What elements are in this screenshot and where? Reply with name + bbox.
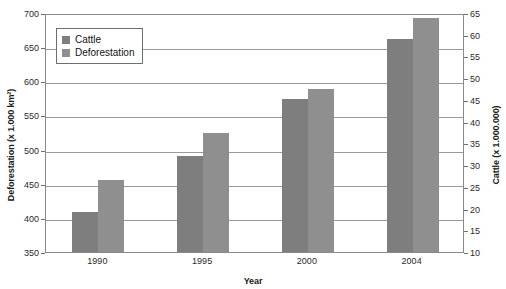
tick-mark-right (464, 79, 468, 80)
tick-mark-left (41, 14, 45, 15)
bar-cattle-2000 (282, 99, 308, 252)
x-label-1995: 1995 (192, 256, 212, 266)
tick-mark-right (464, 101, 468, 102)
tick-label-right-30: 30 (470, 161, 498, 171)
legend-swatch-icon (62, 36, 70, 44)
tick-label-right-20: 20 (470, 205, 498, 215)
tick-mark-left (41, 185, 45, 186)
tick-mark-left (41, 219, 45, 220)
chart-legend: CattleDeforestation (56, 28, 143, 64)
tick-label-left-450: 450 (6, 180, 39, 190)
tick-label-right-50: 50 (470, 74, 498, 84)
legend-label: Cattle (75, 34, 101, 45)
tick-mark-right (464, 253, 468, 254)
tick-mark-right (464, 14, 468, 15)
bar-deforestation-2004 (413, 18, 439, 252)
tick-label-left-400: 400 (6, 214, 39, 224)
tick-label-left-600: 600 (6, 77, 39, 87)
x-label-1990: 1990 (87, 256, 107, 266)
bar-cattle-2004 (387, 39, 413, 252)
tick-label-right-35: 35 (470, 139, 498, 149)
tick-label-left-550: 550 (6, 111, 39, 121)
tick-label-right-45: 45 (470, 96, 498, 106)
tick-label-left-500: 500 (6, 146, 39, 156)
bar-cattle-1990 (72, 212, 98, 252)
tick-label-left-650: 650 (6, 43, 39, 53)
tick-label-right-55: 55 (470, 52, 498, 62)
tick-mark-right (464, 123, 468, 124)
tick-label-right-10: 10 (470, 248, 498, 258)
tick-mark-left (41, 253, 45, 254)
tick-mark-right (464, 166, 468, 167)
x-label-2004: 2004 (402, 256, 422, 266)
tick-label-right-60: 60 (470, 31, 498, 41)
tick-mark-right (464, 144, 468, 145)
bar-cattle-1995 (177, 156, 203, 252)
bar-deforestation-1990 (98, 180, 124, 252)
legend-label: Deforestation (75, 47, 134, 58)
x-axis-title: Year (0, 276, 506, 286)
tick-mark-right (464, 36, 468, 37)
tick-mark-right (464, 231, 468, 232)
tick-label-right-15: 15 (470, 226, 498, 236)
bar-deforestation-1995 (203, 133, 229, 252)
bar-deforestation-2000 (308, 89, 334, 252)
tick-label-right-40: 40 (470, 118, 498, 128)
x-label-2000: 2000 (297, 256, 317, 266)
legend-item-cattle: Cattle (62, 33, 134, 46)
tick-mark-left (41, 116, 45, 117)
tick-label-right-25: 25 (470, 183, 498, 193)
tick-label-left-350: 350 (6, 248, 39, 258)
tick-label-left-700: 700 (6, 9, 39, 19)
legend-item-deforestation: Deforestation (62, 46, 134, 59)
tick-mark-right (464, 188, 468, 189)
tick-mark-left (41, 151, 45, 152)
tick-mark-left (41, 48, 45, 49)
tick-label-right-65: 65 (470, 9, 498, 19)
deforestation-cattle-bar-chart: Deforestation (x 1.000 km²) Cattle (x 1.… (0, 0, 506, 289)
tick-mark-right (464, 210, 468, 211)
legend-swatch-icon (62, 49, 70, 57)
tick-mark-left (41, 82, 45, 83)
tick-mark-right (464, 57, 468, 58)
